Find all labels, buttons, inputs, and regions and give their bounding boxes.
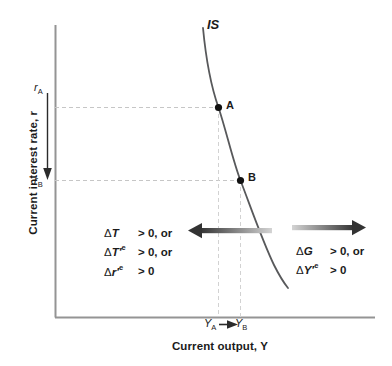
annotation-term: ΔT (104, 222, 138, 241)
right-shift-annotation: ΔG > 0, or ΔY′e > 0 (296, 240, 364, 279)
x-axis-title: Current output, Y (130, 341, 310, 353)
point-b-label: B (248, 172, 256, 183)
x-tick-y-a-sub: A (211, 323, 216, 332)
annotation-term: ΔY′e (296, 259, 330, 278)
y-tick-label-r-b: rB (34, 175, 43, 189)
is-curve (203, 28, 288, 288)
annotation-condition: > 0, or (138, 226, 172, 242)
delta-symbol: Δ (104, 246, 112, 258)
point-a-label: A (226, 100, 234, 111)
plot-canvas (0, 0, 392, 366)
annotation-condition: > 0, or (330, 244, 364, 260)
guide-lines (55, 107, 241, 317)
rightward-shift-arrow (292, 220, 366, 235)
x-tick-y-b-sub: B (242, 323, 247, 332)
annotation-line: ΔT > 0, or (104, 222, 172, 241)
annotation-condition: > 0 (138, 264, 154, 280)
y-axis-title: Current interest rate, r (28, 78, 40, 268)
point-b-marker (237, 177, 244, 184)
superscript-symbol: e (314, 261, 318, 270)
variable-symbol: T (112, 246, 119, 258)
annotation-term: Δr′e (104, 261, 138, 280)
superscript-symbol: e (121, 243, 125, 252)
annotation-term: ΔT′e (104, 241, 138, 260)
x-tick-label-y-b: YB (235, 318, 247, 332)
variable-symbol: T (112, 227, 119, 239)
y-tick-r-b-sub: B (38, 180, 43, 189)
annotation-condition: > 0 (330, 263, 346, 279)
delta-symbol: Δ (296, 245, 304, 257)
annotation-line: ΔY′e > 0 (296, 259, 364, 278)
delta-symbol: Δ (296, 264, 304, 276)
annotation-line: ΔG > 0, or (296, 240, 364, 259)
annotation-condition: > 0, or (138, 245, 172, 261)
point-a-marker (215, 104, 222, 111)
variable-symbol: G (304, 245, 313, 257)
is-curve-figure: Current interest rate, r Current output,… (0, 0, 392, 366)
left-shift-annotation: ΔT > 0, or ΔT′e > 0, or Δr′e > 0 (104, 222, 172, 280)
is-curve-label: IS (207, 18, 219, 31)
y-axis-shift-arrow (43, 93, 52, 180)
x-tick-label-y-a: YA (204, 318, 216, 332)
delta-symbol: Δ (104, 227, 112, 239)
annotation-term: ΔG (296, 240, 330, 259)
delta-symbol: Δ (104, 265, 112, 277)
annotation-line: ΔT′e > 0, or (104, 241, 172, 260)
annotation-line: Δr′e > 0 (104, 261, 172, 280)
superscript-symbol: e (119, 263, 123, 272)
y-tick-label-r-a: rA (34, 82, 43, 96)
leftward-shift-arrow (188, 223, 272, 238)
y-tick-r-a-sub: A (38, 87, 43, 96)
